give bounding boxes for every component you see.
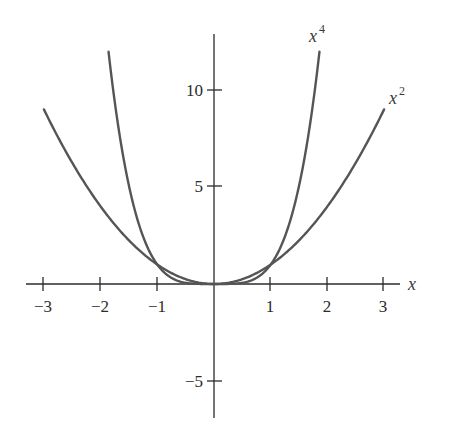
y-tick-label: 5 — [195, 177, 204, 196]
label-x-squared: x 2 — [388, 84, 405, 108]
x-tick-label: 2 — [323, 297, 332, 316]
x-tick-label: 1 — [266, 297, 275, 316]
plot-area: −3 −2 −1 1 2 3 10 5 −5 x x 4 x 2 — [0, 0, 453, 430]
x-axis-label: x — [407, 274, 416, 294]
y-tick-label: −5 — [185, 372, 203, 391]
label-x-fourth: x 4 — [308, 22, 325, 46]
label-x4-base: x — [308, 26, 317, 46]
label-x2-exp: 2 — [399, 84, 405, 98]
label-x2-base: x — [388, 88, 397, 108]
x-tick-label: −2 — [91, 297, 109, 316]
x-tick-label: −3 — [34, 297, 52, 316]
x-tick-label: 3 — [379, 297, 388, 316]
x-tick-label: −1 — [148, 297, 166, 316]
y-tick-label: 10 — [186, 81, 203, 100]
label-x4-exp: 4 — [319, 22, 325, 36]
